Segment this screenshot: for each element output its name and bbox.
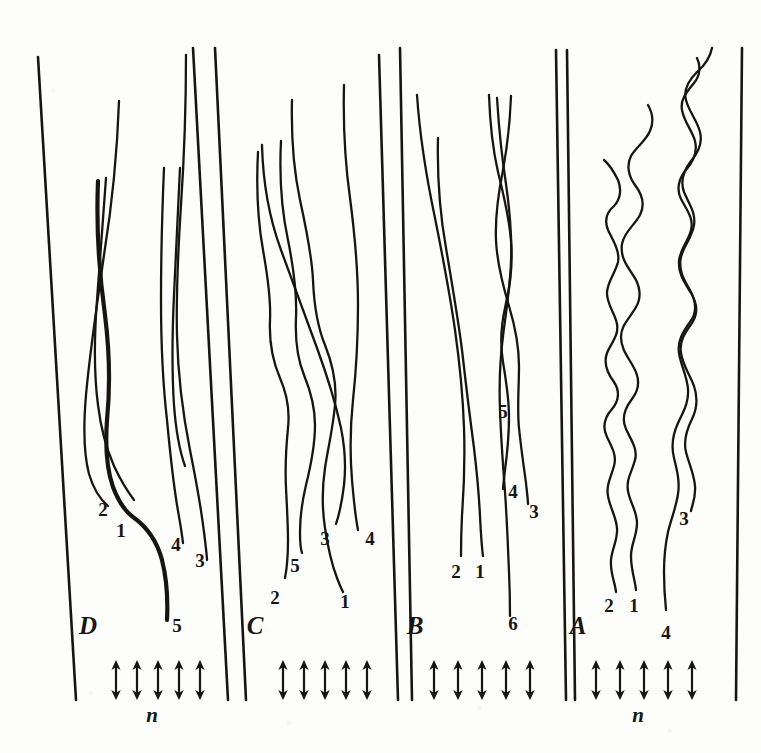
- panel-D-trace-1: [97, 181, 167, 620]
- panel-C-left-rule: [215, 48, 246, 700]
- panel-D-trace-label-5: 5: [172, 615, 182, 636]
- panel-A-trace-label-1: 1: [629, 595, 639, 616]
- panel-B-trace-label-6: 6: [508, 613, 518, 634]
- panel-letter-A: A: [568, 612, 587, 639]
- double-arrow-D-1: [111, 660, 121, 700]
- panel-A-trace-label-3: 3: [679, 508, 689, 529]
- panel-C-trace-label-2: 2: [270, 587, 280, 608]
- double-arrow-D-3: [153, 660, 163, 700]
- panel-B-trace-label-4: 4: [508, 481, 518, 502]
- panel-D-trace-3: [177, 55, 207, 560]
- panel-letter-C: C: [247, 612, 264, 639]
- panel-C-arrow-row: [278, 660, 372, 700]
- double-arrow-A-5: [687, 660, 697, 700]
- panel-B-right-rule: [556, 50, 566, 700]
- panel-C-trace-label-1: 1: [340, 591, 350, 612]
- panel-D-trace-5: [173, 168, 186, 466]
- figure-plate: 21435Dn25134C214365B2134An: [0, 0, 761, 753]
- double-arrow-D-5: [195, 660, 205, 700]
- panel-A-trace-2: [604, 160, 620, 592]
- double-arrow-A-2: [615, 660, 625, 700]
- double-arrow-A-1: [591, 660, 601, 700]
- panel-D: 21435Dn: [38, 48, 228, 727]
- panel-B: 214365B: [400, 48, 566, 700]
- panel-A-right-rule: [736, 48, 742, 700]
- panel-B-trace-label-3: 3: [529, 501, 539, 522]
- figure-canvas: 21435Dn25134C214365B2134An: [0, 0, 761, 753]
- panel-C-right-rule: [379, 55, 398, 700]
- panel-D-trace-label-4: 4: [171, 534, 181, 555]
- panel-C-trace-3: [262, 145, 345, 524]
- double-arrow-B-2: [453, 660, 463, 700]
- double-arrow-D-4: [174, 660, 184, 700]
- panel-D-trace-label-3: 3: [195, 550, 205, 571]
- panel-A: 2134An: [567, 48, 742, 727]
- panel-C-trace-label-3: 3: [320, 528, 330, 549]
- panel-A-trace-3: [679, 58, 700, 511]
- panel-B-trace-label-1: 1: [475, 561, 485, 582]
- double-arrow-B-5: [525, 660, 535, 700]
- panel-A-trace-1: [621, 105, 652, 590]
- double-arrow-B-3: [477, 660, 487, 700]
- panel-letter-B: B: [406, 612, 424, 639]
- panel-C-trace-label-5: 5: [290, 555, 300, 576]
- panel-B-arrow-row: [429, 660, 535, 700]
- panel-D-left-rule: [38, 57, 76, 700]
- panel-D-right-rule: [193, 48, 228, 700]
- double-arrow-C-5: [362, 660, 372, 700]
- panel-D-n-label: n: [146, 703, 158, 727]
- panel-B-left-rule: [400, 48, 412, 700]
- panel-D-arrow-row: [111, 660, 205, 700]
- panel-A-n-label: n: [632, 703, 644, 727]
- panel-C: 25134C: [215, 48, 398, 700]
- double-arrow-A-3: [639, 660, 649, 700]
- panel-D-trace-label-2: 2: [98, 499, 108, 520]
- double-arrow-D-2: [132, 660, 142, 700]
- panel-C-trace-label-4: 4: [365, 528, 375, 549]
- double-arrow-C-4: [341, 660, 351, 700]
- panel-letter-D: D: [78, 612, 97, 639]
- double-arrow-C-3: [320, 660, 330, 700]
- panel-B-mid-label: 5: [498, 401, 508, 422]
- panel-A-left-rule: [567, 50, 575, 700]
- double-arrow-B-1: [429, 660, 439, 700]
- panel-B-trace-1: [438, 138, 483, 556]
- panel-B-trace-2: [417, 95, 464, 556]
- panel-A-trace-label-2: 2: [604, 595, 614, 616]
- panel-A-arrow-row: [591, 660, 697, 700]
- panel-A-trace-label-4: 4: [661, 622, 671, 643]
- panel-D-trace-3: [95, 178, 134, 500]
- double-arrow-C-2: [299, 660, 309, 700]
- double-arrow-B-4: [501, 660, 511, 700]
- panel-B-trace-label-2: 2: [451, 561, 461, 582]
- panel-D-trace-label-1: 1: [116, 520, 126, 541]
- double-arrow-A-4: [663, 660, 673, 700]
- double-arrow-C-1: [278, 660, 288, 700]
